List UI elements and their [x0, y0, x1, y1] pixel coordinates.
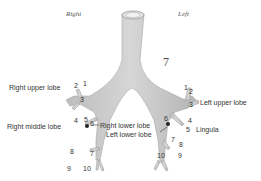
- left-segment-5: 5: [186, 126, 190, 133]
- right-side-label: Right: [66, 10, 81, 18]
- left-segment-1: 1: [184, 84, 188, 91]
- right-segment-4: 4: [74, 117, 78, 124]
- left-segment-6: 6: [164, 115, 168, 122]
- left-lower-lobe-label: Left lower lobe: [106, 131, 152, 138]
- right-segment-7: 7: [90, 150, 94, 157]
- left-upper-lobe-label: Left upper lobe: [200, 99, 247, 106]
- right-segment-9: 9: [67, 165, 71, 172]
- right-segment-2: 2: [74, 82, 78, 89]
- right-segment-6: 6: [90, 120, 94, 127]
- left-segment-9: 9: [178, 152, 182, 159]
- right-segment-10: 10: [83, 165, 91, 172]
- right-middle-lobe-label: Right middle lobe: [7, 123, 61, 130]
- right-segment-8: 8: [70, 148, 74, 155]
- right-upper-lobe-label: Right upper lobe: [9, 84, 60, 91]
- lingula-label: Lingula: [196, 126, 219, 133]
- left-segment-2: 2: [189, 88, 193, 95]
- left-segment-4: 4: [188, 117, 192, 124]
- bronchial-tree-diagram: Right Left 7 Right upper lobe Right midd…: [0, 0, 261, 181]
- left-segment-10: 10: [157, 152, 165, 159]
- right-lower-lobe-label: Right lower lobe: [100, 122, 150, 129]
- right-segment-3: 3: [80, 96, 84, 103]
- left-side-label: Left: [178, 10, 189, 18]
- left-segment-8: 8: [179, 141, 183, 148]
- right-segment-5: 5: [84, 116, 88, 123]
- trachea-segment-number: 7: [163, 55, 169, 70]
- left-segment-7: 7: [171, 136, 175, 143]
- right-segment-1: 1: [83, 80, 87, 87]
- left-segment-3: 3: [189, 101, 193, 108]
